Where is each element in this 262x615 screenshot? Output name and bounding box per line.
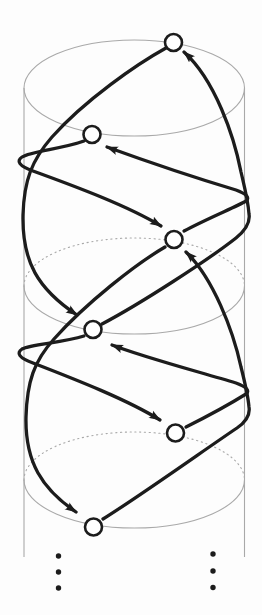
node-n5 [167, 425, 184, 442]
diagram-canvas [0, 0, 262, 615]
left-ellipsis-dot-2 [56, 569, 61, 574]
helix-cylinder-diagram [0, 0, 262, 615]
left-ellipsis-dot-1 [56, 553, 61, 558]
edge-n3-to-n6 [26, 247, 165, 512]
right-ellipsis-dot-3 [210, 585, 215, 590]
edge-n5-to-n4 [112, 345, 248, 427]
middle-rim-back-arc [24, 238, 245, 286]
edge-n1-to-n4 [23, 48, 166, 315]
edge-n4-to-n5 [19, 336, 160, 420]
node-n1 [165, 34, 182, 51]
left-ellipsis-dot-3 [56, 585, 61, 590]
edge-n3-to-n2 [107, 147, 248, 231]
node-n2 [84, 126, 101, 143]
continuation-ellipsis [56, 551, 216, 590]
node-n3 [166, 231, 183, 248]
right-ellipsis-dot-1 [210, 551, 215, 556]
top-rim-back-arc [24, 40, 245, 88]
bottom-rim-back-arc [24, 432, 245, 480]
top-rim-front-arc [24, 88, 245, 136]
helix-edges [19, 48, 249, 519]
edge-n6-to-n3 [103, 252, 249, 519]
node-n6 [85, 519, 102, 536]
middle-rim-front-arc [24, 286, 245, 334]
right-ellipsis-dot-2 [210, 568, 215, 573]
node-n4 [85, 321, 102, 338]
bottom-rim-front-arc [24, 480, 245, 528]
